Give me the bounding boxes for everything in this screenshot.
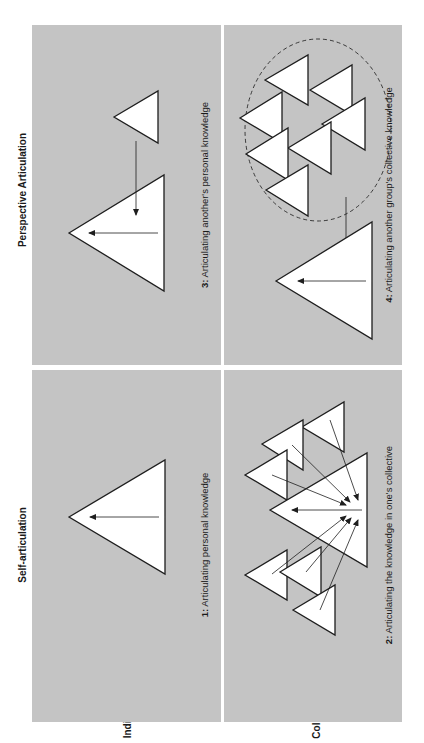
articulation-diagram: Perspective Articulation Self-articulati… <box>0 0 424 743</box>
quadrant-2-caption: 2: Articulating the knowledge in one's c… <box>383 446 394 644</box>
quadrant-4-caption: 4: Articulating another group's collecti… <box>383 87 394 303</box>
header-self-articulation: Self-articulation <box>17 507 28 583</box>
quadrant-3-caption: 3: Articulating another's personal knowl… <box>199 102 210 288</box>
header-perspective-articulation: Perspective Articulation <box>17 133 28 247</box>
quadrant-1-caption: 1: Articulating personal knowledge <box>199 473 210 618</box>
quadrant-4-panel: 4: Articulating another group's collecti… <box>224 25 402 365</box>
quadrant-2-panel: 2: Articulating the knowledge in one's c… <box>224 370 402 722</box>
quadrant-1-panel: 1: Articulating personal knowledge <box>32 370 221 722</box>
quadrant-3-panel: 3: Articulating another's personal knowl… <box>32 25 221 365</box>
